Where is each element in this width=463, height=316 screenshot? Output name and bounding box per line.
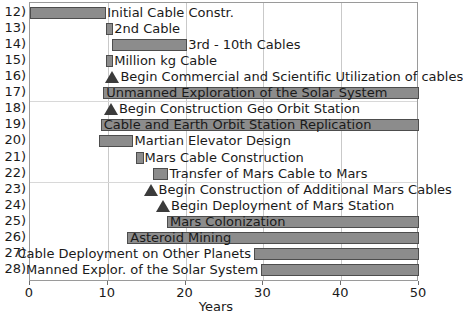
x-axis-tick-label: 0 — [9, 285, 49, 300]
x-axis-tick-label: 40 — [320, 285, 360, 300]
task-label: Transfer of Mars Cable to Mars — [169, 166, 367, 182]
task-label: Million kg Cable — [114, 53, 217, 69]
task-row[interactable]: Mars Cable Construction — [30, 150, 417, 166]
task-bar[interactable] — [261, 264, 419, 276]
task-label: Begin Deployment of Mars Station — [171, 198, 394, 214]
task-row[interactable]: Mars Colonization — [30, 214, 417, 230]
row-number: 16) — [0, 68, 26, 84]
row-number: 28) — [0, 261, 26, 277]
milestone-marker-icon[interactable] — [156, 200, 170, 212]
x-axis-tick-label: 20 — [165, 285, 205, 300]
x-axis-tick-label: 30 — [242, 285, 282, 300]
task-label: Initial Cable Constr. — [107, 5, 234, 21]
task-label: Begin Construction of Additional Mars Ca… — [159, 182, 452, 198]
x-axis-tick-label: 50 — [398, 285, 438, 300]
task-label: Cable and Earth Orbit Station Replicatio… — [104, 117, 372, 133]
task-bar[interactable] — [153, 168, 169, 180]
task-bar[interactable] — [136, 152, 144, 164]
task-row[interactable]: Million kg Cable — [30, 53, 417, 69]
row-number: 12) — [0, 4, 26, 20]
task-label: Martian Elevator Design — [134, 133, 290, 149]
row-number: 25) — [0, 213, 26, 229]
row-number: 21) — [0, 149, 26, 165]
row-number: 17) — [0, 84, 26, 100]
milestone-marker-icon[interactable] — [104, 103, 118, 115]
task-label: Cable Deployment on Other Planets — [17, 246, 251, 262]
milestone-marker-icon[interactable] — [105, 71, 119, 83]
task-row[interactable]: Cable and Earth Orbit Station Replicatio… — [30, 117, 417, 133]
row-number: 22) — [0, 165, 26, 181]
task-row[interactable]: Transfer of Mars Cable to Mars — [30, 166, 417, 182]
row-number: 20) — [0, 132, 26, 148]
task-label: Mars Colonization — [170, 214, 286, 230]
task-row[interactable]: Unmanned Exploration of the Solar System — [30, 85, 417, 101]
row-number: 15) — [0, 52, 26, 68]
task-label: Unmanned Exploration of the Solar System — [106, 85, 387, 101]
task-label: Asteroid Mining — [130, 230, 231, 246]
x-axis-title: Years — [0, 299, 432, 314]
task-label: 3rd - 10th Cables — [188, 37, 300, 53]
task-row[interactable]: Begin Construction of Additional Mars Ca… — [30, 182, 417, 198]
task-row[interactable]: Cable Deployment on Other Planets — [30, 246, 417, 262]
row-number: 24) — [0, 197, 26, 213]
plot-area: Initial Cable Constr.2nd Cable3rd - 10th… — [29, 2, 418, 281]
task-bar[interactable] — [106, 23, 113, 35]
task-row[interactable]: Begin Deployment of Mars Station — [30, 198, 417, 214]
row-number: 26) — [0, 229, 26, 245]
task-row[interactable]: Begin Construction Geo Orbit Station — [30, 101, 417, 117]
row-number: 13) — [0, 20, 26, 36]
x-axis-tick-label: 10 — [87, 285, 127, 300]
task-row[interactable]: 3rd - 10th Cables — [30, 37, 417, 53]
task-row[interactable]: Initial Cable Constr. — [30, 5, 417, 21]
task-label: Manned Explor. of the Solar System — [26, 262, 258, 278]
task-row[interactable]: Martian Elevator Design — [30, 133, 417, 149]
task-row[interactable]: Manned Explor. of the Solar System — [30, 262, 417, 278]
task-bar[interactable] — [30, 7, 106, 19]
task-row[interactable]: Begin Commercial and Scientific Utilizat… — [30, 69, 417, 85]
milestone-marker-icon[interactable] — [144, 184, 158, 196]
task-label: 2nd Cable — [114, 21, 180, 37]
task-label: Begin Construction Geo Orbit Station — [119, 101, 360, 117]
row-number: 23) — [0, 181, 26, 197]
row-number: 18) — [0, 100, 26, 116]
task-bar[interactable] — [112, 39, 187, 51]
row-number: 19) — [0, 116, 26, 132]
task-bar[interactable] — [99, 135, 133, 147]
task-bar[interactable] — [254, 248, 419, 260]
task-label: Begin Commercial and Scientific Utilizat… — [120, 69, 463, 85]
task-bar[interactable] — [106, 55, 113, 67]
task-label: Mars Cable Construction — [145, 150, 304, 166]
row-number: 14) — [0, 36, 26, 52]
task-row[interactable]: 2nd Cable — [30, 21, 417, 37]
task-row[interactable]: Asteroid Mining — [30, 230, 417, 246]
